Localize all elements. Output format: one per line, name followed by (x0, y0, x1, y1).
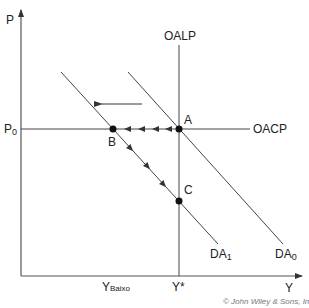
point-c: C (176, 183, 194, 205)
da0-base: DA (275, 247, 292, 261)
low-output-base: Y (102, 280, 110, 294)
point-c-label: C (184, 183, 193, 197)
point-a-label: A (184, 113, 192, 127)
low-output-label: YBaixo (102, 280, 131, 294)
da1-base: DA (210, 247, 227, 261)
point-a: A (176, 113, 193, 133)
da1-line (61, 72, 218, 244)
copyright-credit: © John Wiley & Sons, Inc. (223, 297, 309, 306)
low-output-super: Baixo (110, 284, 131, 293)
price-level-sub: 0 (12, 127, 17, 137)
ad-as-diagram: P Y OACP P0 OALP DA0 DA1 A (0, 0, 309, 308)
da0-curve: DA0 (128, 72, 297, 262)
da0-label: DA0 (275, 247, 297, 262)
potential-output-label: Y* (172, 280, 185, 294)
da1-sub: 1 (227, 252, 232, 262)
da0-sub: 0 (292, 252, 297, 262)
oacp-label: OACP (253, 122, 287, 136)
oalp-curve: OALP (164, 29, 196, 276)
axes: P Y (6, 10, 302, 295)
point-b-dot (110, 126, 117, 133)
oalp-label: OALP (164, 29, 196, 43)
arrowhead-left-icon (152, 126, 159, 132)
arrowhead-left-icon (165, 126, 172, 132)
da0-line (128, 72, 283, 244)
point-b-label: B (108, 135, 116, 149)
point-c-dot (176, 198, 183, 205)
path-b-to-c-arrowheads (126, 144, 168, 189)
price-level-base: P (4, 122, 12, 136)
price-level-label: P0 (4, 122, 17, 137)
point-a-dot (176, 126, 183, 133)
arrowhead-left-icon (138, 126, 145, 132)
y-axis-label: P (6, 13, 14, 27)
arrowhead-left-icon (124, 126, 131, 132)
x-axis-label: Y (285, 281, 293, 295)
da1-label: DA1 (210, 247, 232, 262)
